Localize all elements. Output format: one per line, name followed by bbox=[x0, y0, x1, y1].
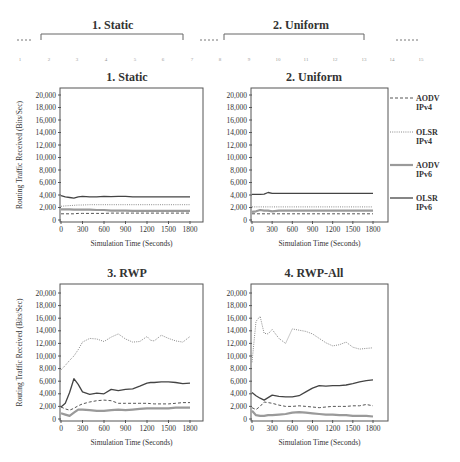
y-tick-label: 10,000 bbox=[35, 153, 56, 162]
y-tick-label: 18,000 bbox=[35, 103, 56, 112]
y-tick-label: 18,000 bbox=[226, 103, 247, 112]
chart-panel-1: 1. Static02,0004,0006,0008,00010,00012,0… bbox=[15, 70, 203, 248]
plot-frame bbox=[251, 284, 388, 421]
y-axis-label: Routing Traffic Received (Bits/Sec) bbox=[15, 101, 24, 209]
y-tick-label: 0 bbox=[52, 415, 56, 424]
legend-label: AODV bbox=[416, 94, 440, 103]
series-olsr-ipv6 bbox=[252, 380, 373, 400]
y-tick-label: 0 bbox=[243, 216, 247, 225]
plot-frame bbox=[251, 88, 388, 222]
x-tick-label: 0 bbox=[59, 424, 63, 433]
y-tick-label: 0 bbox=[52, 216, 56, 225]
x-tick-label: 600 bbox=[287, 424, 299, 433]
x-tick-label: 1800 bbox=[366, 225, 381, 234]
figure: 1. Static 2. Uniform 1234567891011121314… bbox=[0, 0, 460, 462]
y-tick-label: 10,000 bbox=[35, 352, 56, 361]
x-tick-label: 1200 bbox=[140, 225, 155, 234]
series-aodv-ipv6 bbox=[61, 209, 190, 211]
x-tick-label: 1200 bbox=[325, 225, 340, 234]
y-tick-label: 4,000 bbox=[39, 389, 56, 398]
y-tick-label: 6,000 bbox=[230, 377, 247, 386]
x-axis-label: Simulation Time (Seconds) bbox=[90, 239, 173, 248]
y-tick-label: 8,000 bbox=[39, 364, 56, 373]
legend-item: AODVIPv6 bbox=[390, 161, 440, 180]
x-tick-label: 900 bbox=[120, 225, 132, 234]
y-tick-label: 20,000 bbox=[35, 91, 56, 100]
x-tick-label: 300 bbox=[267, 225, 279, 234]
x-tick-label: 600 bbox=[98, 424, 110, 433]
legend-sublabel: IPv4 bbox=[416, 103, 432, 112]
y-tick-label: 16,000 bbox=[35, 116, 56, 125]
series-olsr-ipv6 bbox=[252, 193, 373, 195]
legend-item: AODVIPv4 bbox=[390, 94, 440, 113]
y-axis-label: Routing Traffic Received (Bits/Sec) bbox=[15, 298, 24, 406]
x-axis-label: Simulation Time (Seconds) bbox=[278, 438, 361, 447]
y-tick-label: 14,000 bbox=[226, 326, 247, 335]
chart-title: 3. RWP bbox=[107, 266, 147, 280]
x-tick-label: 600 bbox=[98, 225, 110, 234]
chart-title: 2. Uniform bbox=[286, 70, 342, 84]
series-olsr-ipv4 bbox=[252, 316, 373, 362]
plot-frame bbox=[60, 88, 203, 222]
legend-label: OLSR bbox=[416, 128, 438, 137]
series-olsr-ipv6 bbox=[61, 196, 190, 199]
y-tick-label: 12,000 bbox=[226, 339, 247, 348]
series-aodv-ipv4 bbox=[252, 402, 373, 410]
y-tick-label: 16,000 bbox=[226, 314, 247, 323]
x-tick-label: 600 bbox=[287, 225, 299, 234]
y-tick-label: 10,000 bbox=[226, 352, 247, 361]
y-tick-label: 6,000 bbox=[230, 178, 247, 187]
legend-sublabel: IPv4 bbox=[416, 137, 432, 146]
charts-canvas: 1. Static02,0004,0006,0008,00010,00012,0… bbox=[0, 0, 460, 462]
x-tick-label: 900 bbox=[120, 424, 132, 433]
series-olsr-ipv6 bbox=[61, 379, 190, 407]
x-tick-label: 300 bbox=[77, 424, 89, 433]
y-tick-label: 0 bbox=[243, 415, 247, 424]
series-olsr-ipv4 bbox=[61, 334, 190, 370]
x-tick-label: 1500 bbox=[345, 424, 360, 433]
y-tick-label: 6,000 bbox=[39, 377, 56, 386]
x-tick-label: 300 bbox=[77, 225, 89, 234]
y-tick-label: 16,000 bbox=[35, 314, 56, 323]
x-tick-label: 1200 bbox=[325, 424, 340, 433]
legend-label: AODV bbox=[416, 161, 440, 170]
y-tick-label: 12,000 bbox=[35, 141, 56, 150]
y-tick-label: 18,000 bbox=[226, 301, 247, 310]
x-tick-label: 1800 bbox=[183, 424, 198, 433]
y-tick-label: 2,000 bbox=[230, 402, 247, 411]
y-tick-label: 2,000 bbox=[230, 203, 247, 212]
chart-panel-3: 3. RWP02,0004,0006,0008,00010,00012,0001… bbox=[15, 266, 203, 447]
chart-title: 1. Static bbox=[106, 70, 148, 84]
legend: AODVIPv4OLSRIPv4AODVIPv6OLSRIPv6 bbox=[390, 94, 440, 213]
x-tick-label: 300 bbox=[267, 424, 279, 433]
series-aodv-ipv4 bbox=[61, 213, 190, 214]
y-tick-label: 14,000 bbox=[35, 326, 56, 335]
y-tick-label: 12,000 bbox=[35, 339, 56, 348]
legend-item: OLSRIPv4 bbox=[390, 128, 438, 147]
chart-panel-2: 2. Uniform02,0004,0006,0008,00010,00012,… bbox=[226, 70, 388, 248]
y-tick-label: 20,000 bbox=[226, 91, 247, 100]
y-tick-label: 8,000 bbox=[39, 166, 56, 175]
y-tick-label: 4,000 bbox=[230, 389, 247, 398]
x-tick-label: 1800 bbox=[366, 424, 381, 433]
legend-label: OLSR bbox=[416, 194, 438, 203]
chart-panel-4: 4. RWP-All02,0004,0006,0008,00010,00012,… bbox=[226, 266, 388, 447]
chart-title: 4. RWP-All bbox=[285, 266, 345, 280]
y-tick-label: 20,000 bbox=[35, 289, 56, 298]
series-aodv-ipv6 bbox=[252, 210, 373, 212]
y-tick-label: 18,000 bbox=[35, 301, 56, 310]
y-tick-label: 14,000 bbox=[226, 128, 247, 137]
legend-item: OLSRIPv6 bbox=[390, 194, 438, 213]
x-tick-label: 1500 bbox=[161, 424, 176, 433]
y-tick-label: 12,000 bbox=[226, 141, 247, 150]
y-tick-label: 2,000 bbox=[39, 402, 56, 411]
y-tick-label: 6,000 bbox=[39, 178, 56, 187]
y-tick-label: 8,000 bbox=[230, 364, 247, 373]
y-tick-label: 2,000 bbox=[39, 203, 56, 212]
x-tick-label: 900 bbox=[307, 424, 319, 433]
x-tick-label: 0 bbox=[250, 225, 254, 234]
x-axis-label: Simulation Time (Seconds) bbox=[278, 239, 361, 248]
series-aodv-ipv6 bbox=[61, 408, 190, 416]
series-olsr-ipv4 bbox=[61, 205, 190, 207]
y-tick-label: 10,000 bbox=[226, 153, 247, 162]
